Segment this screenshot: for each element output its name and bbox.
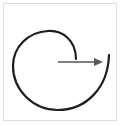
- spiral-arc-icon: [13, 31, 109, 110]
- diagram-canvas: [0, 0, 121, 126]
- arrow-head-icon: [94, 58, 103, 66]
